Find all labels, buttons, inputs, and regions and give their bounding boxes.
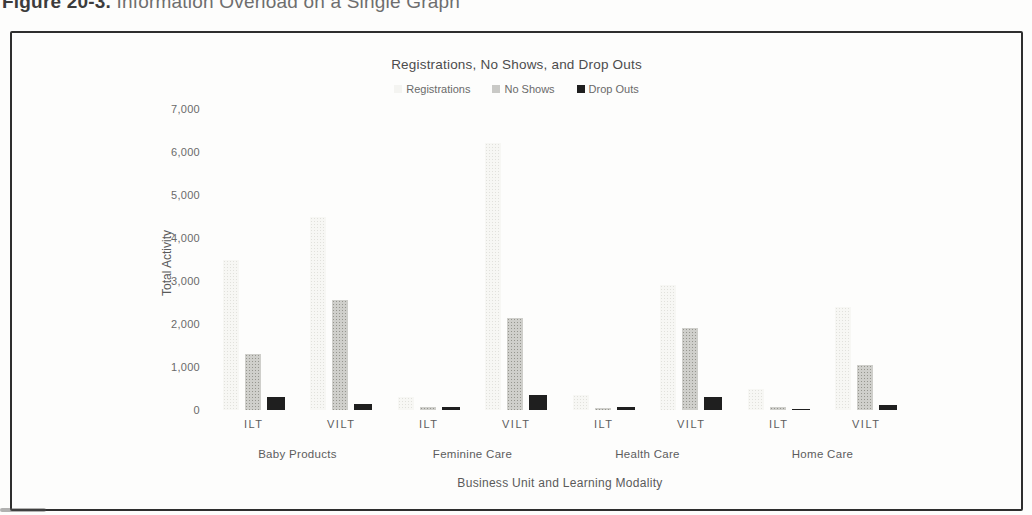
y-tick-label: 4,000: [171, 232, 200, 244]
legend-label-no-shows: No Shows: [504, 83, 554, 95]
chart-title: Registrations, No Shows, and Drop Outs: [12, 57, 1021, 72]
bar-cluster: [735, 109, 823, 410]
y-tick-label: 7,000: [171, 103, 200, 115]
modality-label: VILT: [473, 418, 561, 430]
bar-registrations: [660, 285, 676, 410]
bar-drop-outs: [529, 395, 547, 410]
modality-label: ILT: [210, 418, 298, 430]
y-axis-tick-labels: 01,0002,0003,0004,0005,0006,0007,000: [12, 109, 200, 410]
registrations-swatch-icon: [394, 85, 402, 93]
modality-label: ILT: [735, 418, 823, 430]
business-unit-label: Health Care: [560, 448, 735, 460]
bar-registrations: [223, 260, 239, 411]
scan-smudge: [0, 508, 46, 512]
bar-registrations: [398, 397, 414, 410]
y-tick-label: 5,000: [171, 189, 200, 201]
modality-label: ILT: [560, 418, 648, 430]
bar-drop-outs: [617, 407, 635, 410]
bar-cluster: [823, 109, 911, 410]
figure-caption-number: Figure 20-3.: [2, 0, 111, 12]
drop-outs-swatch-icon: [577, 85, 585, 93]
bar-registrations: [573, 395, 589, 410]
bar-cluster: [298, 109, 386, 410]
bar-registrations: [835, 307, 851, 410]
bar-no-shows: [682, 328, 698, 410]
bar-no-shows: [332, 300, 348, 410]
y-tick-label: 0: [194, 404, 200, 416]
bar-no-shows: [857, 365, 873, 410]
plot-area: [210, 109, 910, 410]
legend-label-drop-outs: Drop Outs: [589, 83, 639, 95]
y-tick-label: 1,000: [171, 361, 200, 373]
bar-drop-outs: [792, 409, 810, 410]
legend-label-registrations: Registrations: [406, 83, 470, 95]
group-label-row: Baby ProductsFeminine CareHealth CareHom…: [210, 448, 910, 460]
business-unit-label: Feminine Care: [385, 448, 560, 460]
bar-no-shows: [770, 407, 786, 410]
bar-cluster: [560, 109, 648, 410]
modality-label: VILT: [298, 418, 386, 430]
bar-drop-outs: [442, 407, 460, 410]
modality-label: ILT: [385, 418, 473, 430]
bar-no-shows: [595, 408, 611, 410]
x-axis-title: Business Unit and Learning Modality: [210, 476, 910, 490]
legend-item-no-shows: No Shows: [492, 83, 554, 95]
modality-label-row: ILTVILTILTVILTILTVILTILTVILT: [210, 418, 910, 430]
bar-drop-outs: [879, 405, 897, 410]
chart-frame: Registrations, No Shows, and Drop Outs R…: [10, 31, 1023, 511]
business-unit-label: Baby Products: [210, 448, 385, 460]
legend-item-drop-outs: Drop Outs: [577, 83, 639, 95]
figure-caption: Figure 20-3. Information Overload on a S…: [2, 0, 460, 13]
bar-registrations: [485, 143, 501, 410]
modality-label: VILT: [823, 418, 911, 430]
y-tick-label: 6,000: [171, 146, 200, 158]
bar-cluster: [473, 109, 561, 410]
bar-drop-outs: [267, 397, 285, 410]
legend: Registrations No Shows Drop Outs: [12, 83, 1021, 95]
bar-cluster: [210, 109, 298, 410]
business-unit-label: Home Care: [735, 448, 910, 460]
legend-item-registrations: Registrations: [394, 83, 470, 95]
figure-caption-text: Information Overload on a Single Graph: [111, 0, 460, 12]
no-shows-swatch-icon: [492, 85, 500, 93]
bar-no-shows: [507, 318, 523, 410]
bar-registrations: [310, 217, 326, 411]
bar-no-shows: [245, 354, 261, 410]
bar-cluster: [385, 109, 473, 410]
bar-no-shows: [420, 407, 436, 410]
bar-drop-outs: [354, 404, 372, 410]
y-tick-label: 3,000: [171, 275, 200, 287]
bar-registrations: [748, 389, 764, 411]
bar-drop-outs: [704, 397, 722, 410]
bar-cluster: [648, 109, 736, 410]
modality-label: VILT: [648, 418, 736, 430]
y-tick-label: 2,000: [171, 318, 200, 330]
